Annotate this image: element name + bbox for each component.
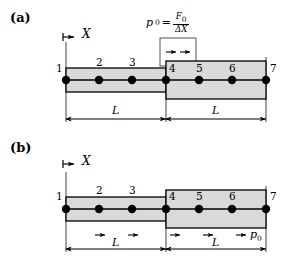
dimension-label-L-left-b: L [112, 236, 119, 249]
node-label-1-a: 1 [56, 62, 63, 74]
formula-lhs-subscript: 0 [155, 18, 160, 27]
load-intensity-formula-a: p0 = F0 ΔX [146, 12, 189, 33]
formula-denominator: ΔX [173, 24, 189, 34]
node-label-4-a: 4 [169, 62, 176, 74]
distributed-load-label-b: p0 [250, 228, 262, 243]
node-label-6-a: 6 [229, 62, 236, 74]
node-marker [228, 205, 236, 213]
formula-lhs: p [146, 16, 153, 29]
dimension-label-L-left-a: L [112, 104, 119, 117]
panel-a-graphics [62, 33, 270, 122]
axis-label-x-b: X [82, 154, 91, 168]
formula-numerator: F0 [174, 12, 189, 24]
node-marker [262, 205, 270, 213]
dimension-label-L-right-b: L [212, 236, 219, 249]
distributed-load-subscript: 0 [257, 234, 262, 243]
node-marker [128, 205, 136, 213]
node-label-7-a: 7 [270, 62, 277, 74]
node-marker [228, 76, 236, 84]
node-marker [95, 76, 103, 84]
panel-b-graphics [62, 160, 270, 252]
node-marker [195, 205, 203, 213]
node-label-2-b: 2 [96, 184, 103, 196]
node-marker [195, 76, 203, 84]
panel-label-b: (b) [10, 140, 31, 155]
node-label-5-a: 5 [196, 62, 203, 74]
dimension-label-L-right-a: L [212, 104, 219, 117]
formula-fraction: F0 ΔX [173, 12, 189, 33]
node-label-3-a: 3 [129, 56, 136, 68]
node-marker [262, 76, 270, 84]
beam-loading-figure: (a) X p0 = F0 ΔX 1 2 3 4 5 6 7 L L (b) X… [0, 0, 307, 268]
node-marker [62, 76, 70, 84]
distributed-load-symbol: p [250, 228, 257, 241]
panel-label-a: (a) [10, 10, 31, 25]
node-marker [95, 205, 103, 213]
node-marker [162, 76, 170, 84]
node-marker [62, 205, 70, 213]
node-label-7-b: 7 [270, 190, 277, 202]
formula-equals: = [162, 16, 171, 29]
node-marker [128, 76, 136, 84]
node-label-3-b: 3 [129, 184, 136, 196]
node-label-1-b: 1 [56, 190, 63, 202]
axis-label-x-a: X [82, 27, 91, 41]
node-label-5-b: 5 [196, 190, 203, 202]
node-marker [162, 205, 170, 213]
node-label-2-a: 2 [96, 56, 103, 68]
node-label-4-b: 4 [169, 190, 176, 202]
node-label-6-b: 6 [229, 190, 236, 202]
